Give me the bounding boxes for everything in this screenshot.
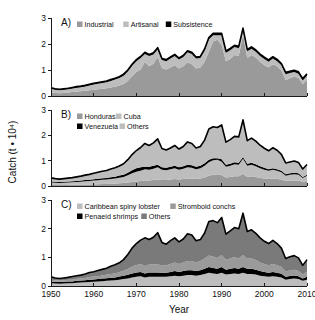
legend-label-honduras: Honduras xyxy=(85,112,117,121)
legend-swatch-stromboid-conchs xyxy=(170,204,176,210)
legend-label-caribbean-spiny-lobster: Caribbean spiny lobster xyxy=(85,202,161,211)
y-tick-label-1: 1 xyxy=(41,252,46,262)
legend-label-artisanal: Artisanal xyxy=(131,20,159,29)
panel-b: 0123B)HondurasCubaVenezuelaOthers xyxy=(41,105,307,191)
y-tick-label-1: 1 xyxy=(41,65,46,75)
y-tick-label-3: 3 xyxy=(41,195,46,205)
legend-label-cuba: Cuba xyxy=(123,112,140,121)
panel-letter-1: B) xyxy=(61,109,71,120)
y-tick-label-2: 2 xyxy=(41,224,46,234)
legend-swatch-artisanal xyxy=(123,22,129,28)
panel-letter-2: C) xyxy=(61,199,72,210)
legend-swatch-honduras xyxy=(77,114,83,120)
y-tick-label-2: 2 xyxy=(41,130,46,140)
figure-container: 0123A)IndustrialArtisanalSubsistence0123… xyxy=(0,0,315,320)
x-axis-title: Year xyxy=(169,304,190,315)
x-tick-label-1970: 1970 xyxy=(127,289,146,299)
legend-label-stromboid-conchs: Stromboid conchs xyxy=(178,202,236,211)
legend-swatch-others xyxy=(120,124,126,130)
legend-swatch-others xyxy=(141,214,147,220)
legend-swatch-cuba xyxy=(116,114,122,120)
legend-swatch-subsistence xyxy=(166,22,172,28)
y-tick-label-2: 2 xyxy=(41,39,46,49)
legend-label-others: Others xyxy=(127,122,149,131)
legend-swatch-venezuela xyxy=(77,124,83,130)
legend-swatch-caribbean-spiny-lobster xyxy=(77,204,83,210)
legend-label-others: Others xyxy=(149,212,171,221)
x-tick-label-1980: 1980 xyxy=(170,289,189,299)
y-tick-label-3: 3 xyxy=(41,13,46,23)
x-tick-label-1990: 1990 xyxy=(212,289,231,299)
legend-swatch-penaeid-shrimps xyxy=(77,214,83,220)
panel-c: 01231950196019701980199020002010C)Caribb… xyxy=(41,195,315,299)
x-tick-label-1950: 1950 xyxy=(42,289,61,299)
legend-label-penaeid-shrimps: Penaeid shrimps xyxy=(85,212,139,221)
y-tick-label-0: 0 xyxy=(41,91,46,101)
legend-label-venezuela: Venezuela xyxy=(85,122,119,131)
x-tick-label-2010: 2010 xyxy=(298,289,315,299)
legend-label-industrial: Industrial xyxy=(85,20,115,29)
stacked-area-chart: 0123A)IndustrialArtisanalSubsistence0123… xyxy=(0,0,315,320)
y-axis-title: Catch (t • 10⁴) xyxy=(7,121,18,184)
panel-a: 0123A)IndustrialArtisanalSubsistence xyxy=(41,13,307,101)
y-tick-label-3: 3 xyxy=(41,105,46,115)
x-tick-label-1960: 1960 xyxy=(84,289,103,299)
y-tick-label-0: 0 xyxy=(41,181,46,191)
x-tick-label-2000: 2000 xyxy=(255,289,274,299)
legend-label-subsistence: Subsistence xyxy=(173,20,212,29)
legend-swatch-industrial xyxy=(77,22,83,28)
panel-letter-0: A) xyxy=(61,17,71,28)
y-tick-label-1: 1 xyxy=(41,156,46,166)
